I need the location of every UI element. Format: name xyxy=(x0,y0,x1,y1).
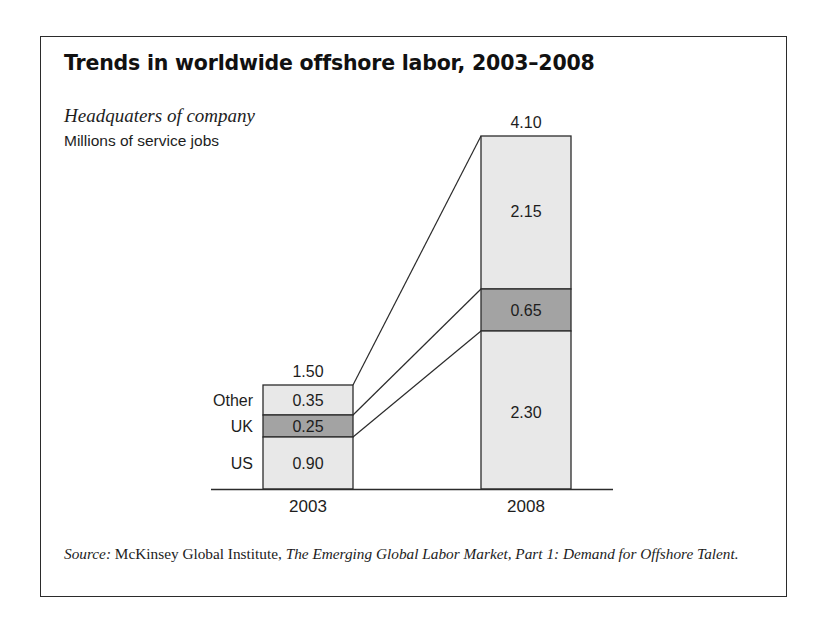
bar-total-label-2008: 4.10 xyxy=(510,114,541,131)
bar-total-label-2003: 1.50 xyxy=(292,363,323,380)
bar-value-label-2003-uk: 0.25 xyxy=(292,418,323,435)
x-axis-tick-2008: 2008 xyxy=(507,497,545,516)
bar-value-label-2003-us: 0.90 xyxy=(292,455,323,472)
series-label-other: Other xyxy=(213,392,254,409)
exhibit-frame: Trends in worldwide offshore labor, 2003… xyxy=(40,36,787,597)
x-axis-tick-2003: 2003 xyxy=(289,497,327,516)
series-labels: Other UK US xyxy=(213,392,254,472)
source-note: Source: McKinsey Global Institute, The E… xyxy=(64,543,754,565)
connector-lines xyxy=(353,136,481,437)
source-lead: Source: xyxy=(64,545,111,562)
chart-plot-area: 1.50 0.35 0.25 0.90 4.10 2.15 0.65 2.30 xyxy=(41,37,788,598)
bar-value-label-2003-other: 0.35 xyxy=(292,392,323,409)
bar-value-label-2008-uk: 0.65 xyxy=(510,302,541,319)
series-label-us: US xyxy=(231,455,253,472)
source-publication: The Emerging Global Labor Market, Part 1… xyxy=(286,545,739,562)
series-label-uk: UK xyxy=(231,418,254,435)
bar-group-2003[interactable]: 1.50 0.35 0.25 0.90 xyxy=(263,363,353,489)
x-axis-tick-labels: 2003 2008 xyxy=(289,497,545,516)
connector-line-other-uk xyxy=(353,289,481,415)
bar-value-label-2008-other: 2.15 xyxy=(510,203,541,220)
bar-group-2008[interactable]: 4.10 2.15 0.65 2.30 xyxy=(481,114,571,489)
bar-value-label-2008-us: 2.30 xyxy=(510,404,541,421)
stacked-bar-chart: 1.50 0.35 0.25 0.90 4.10 2.15 0.65 2.30 xyxy=(41,37,788,598)
source-body: McKinsey Global Institute, xyxy=(111,545,286,562)
